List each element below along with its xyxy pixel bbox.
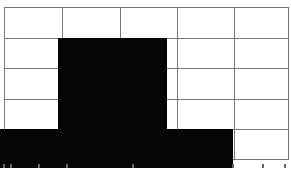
grid-line-v [234, 7, 235, 160]
black-block-bottom [0, 129, 233, 168]
clipped-glyph [284, 164, 286, 168]
clipped-glyph [262, 164, 264, 168]
clipped-glyph [38, 164, 40, 168]
clipped-text-row [0, 164, 291, 170]
clipped-glyph [10, 164, 12, 168]
clipped-glyph [66, 164, 68, 168]
clipped-glyph [132, 164, 134, 168]
grid-line-h [4, 7, 289, 8]
grid-line-v [288, 7, 289, 160]
clipped-glyph [3, 164, 5, 168]
clipped-glyph [232, 164, 234, 168]
